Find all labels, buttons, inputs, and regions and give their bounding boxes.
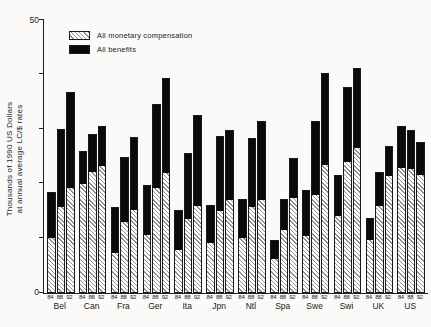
bar-Fra-88 [120,157,129,293]
bar-Bel-88 [57,129,66,293]
bar-Can-88 [88,134,97,293]
year-label-Fra-88: 88 [119,294,128,300]
segment-monetary-Fra-84 [112,253,119,292]
bar-group-Ntl [238,121,266,293]
segment-benefits-US-84 [398,127,405,168]
segment-monetary-Ger-84 [144,235,151,292]
country-label-Ita: Ita [182,301,191,311]
bar-Bel-84 [47,192,56,293]
year-label-Can-84: 84 [78,294,87,300]
year-label-Swe-88: 88 [310,294,319,300]
segment-benefits-Spa-92 [290,159,297,198]
segment-monetary-Bel-88 [58,207,65,292]
segment-benefits-US-88 [408,131,415,169]
country-label-Swi: Swi [340,301,354,311]
segment-benefits-Ntl-92 [258,122,265,200]
segment-benefits-Swe-88 [312,122,319,195]
year-label-Ita-84: 84 [173,294,182,300]
country-label-Can: Can [84,301,100,311]
segment-monetary-Ntl-88 [249,207,256,292]
segment-monetary-Ita-84 [175,250,182,292]
country-label-Ntl: Ntl [246,301,256,311]
bar-Spa-84 [270,240,279,293]
country-label-UK: UK [372,301,384,311]
year-label-Swi-92: 92 [352,294,361,300]
bar-Ntl-84 [238,199,247,293]
year-labels-Swi: 848892 [333,294,361,300]
segment-monetary-Swe-88 [312,195,319,292]
bar-group-Bel [47,92,75,293]
segment-benefits-Ntl-88 [249,139,256,207]
year-label-Bel-88: 88 [56,294,65,300]
segment-benefits-Jpn-88 [217,137,224,211]
bar-Swi-84 [334,175,343,293]
year-label-US-92: 92 [415,294,424,300]
year-label-US-88: 88 [406,294,415,300]
x-label-group-Can: 848892Can [78,294,106,311]
year-label-UK-88: 88 [374,294,383,300]
y-tick-label-0: 0 [30,287,39,297]
bar-group-Spa [270,158,298,293]
bar-Ger-92 [162,78,171,293]
segment-monetary-Swi-88 [344,162,351,292]
bar-Swe-84 [302,190,311,293]
segment-monetary-UK-92 [386,176,393,292]
bar-US-84 [397,126,406,293]
segment-monetary-Swe-92 [322,165,329,292]
year-label-Ntl-84: 84 [237,294,246,300]
bar-Spa-92 [289,158,298,293]
segment-monetary-Ita-92 [194,206,201,292]
segment-monetary-US-88 [408,169,415,292]
segment-benefits-Swi-92 [354,69,361,147]
segment-benefits-UK-84 [367,219,374,239]
year-labels-UK: 848892 [365,294,393,300]
year-label-US-84: 84 [396,294,405,300]
segment-benefits-UK-92 [386,147,393,176]
segment-monetary-Bel-92 [67,188,74,292]
bar-US-92 [416,142,425,293]
country-label-Swe: Swe [306,301,323,311]
bar-group-UK [366,146,394,293]
country-label-Jpn: Jpn [212,301,226,311]
segment-benefits-Ita-92 [194,116,201,206]
bar-Jpn-88 [216,136,225,293]
year-labels-Bel: 848892 [46,294,74,300]
year-label-Fra-84: 84 [110,294,119,300]
x-label-group-Swe: 848892Swe [301,294,329,311]
bar-Swi-92 [353,68,362,293]
bar-group-Ger [143,78,171,293]
bar-Fra-92 [130,137,139,293]
year-label-UK-84: 84 [365,294,374,300]
year-labels-Spa: 848892 [269,294,297,300]
x-axis-labels: 848892Bel848892Can848892Fra848892Ger8488… [43,294,427,311]
x-label-group-Bel: 848892Bel [46,294,74,311]
year-label-Can-92: 92 [97,294,106,300]
year-labels-Swe: 848892 [301,294,329,300]
segment-benefits-Jpn-92 [226,131,233,200]
year-label-Jpn-84: 84 [205,294,214,300]
year-label-Spa-84: 84 [269,294,278,300]
x-label-group-Ita: 848892Ita [173,294,201,311]
x-label-group-Swi: 848892Swi [333,294,361,311]
segment-benefits-Swe-84 [303,191,310,236]
segment-monetary-Spa-92 [290,198,297,292]
segment-monetary-Ntl-84 [239,238,246,292]
bar-Fra-84 [111,207,120,293]
bar-group-Can [79,126,107,293]
segment-benefits-Ntl-84 [239,200,246,238]
year-label-Ger-88: 88 [151,294,160,300]
bar-UK-88 [375,172,384,293]
bar-Ita-88 [184,153,193,293]
bar-Jpn-84 [206,205,215,293]
year-labels-Fra: 848892 [110,294,138,300]
year-label-UK-92: 92 [384,294,393,300]
year-label-Ger-92: 92 [161,294,170,300]
segment-benefits-Ita-84 [175,211,182,250]
year-labels-Jpn: 848892 [205,294,233,300]
segment-benefits-Bel-92 [67,93,74,188]
segment-benefits-Bel-88 [58,130,65,208]
segment-monetary-US-84 [398,168,405,292]
plot-area: 50 0 All monetary compensation All benef… [43,19,428,294]
segment-benefits-Swi-88 [344,88,351,163]
bar-Can-92 [98,126,107,293]
